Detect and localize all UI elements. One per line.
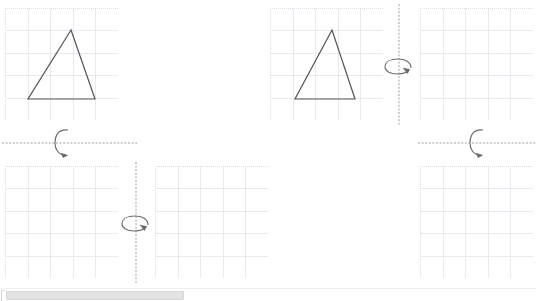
arrow-head: [476, 153, 482, 157]
grid-bottom-middle[interactable]: [155, 166, 268, 278]
rotation-arrow-vertical[interactable]: [119, 211, 153, 235]
arrow-arc: [55, 130, 68, 155]
rotation-arrow-horizontal[interactable]: [466, 126, 492, 160]
rotation-arrow-vertical[interactable]: [382, 54, 416, 78]
grid-lines: [155, 166, 268, 278]
triangle-shape[interactable]: [5, 8, 118, 120]
worksheet-canvas: [0, 0, 536, 301]
horizontal-scrollbar-thumb[interactable]: [6, 291, 184, 300]
arrow-head: [61, 153, 67, 157]
arrow-arc: [470, 130, 483, 155]
grid-bottom-right[interactable]: [420, 166, 533, 278]
grid-lines: [5, 166, 118, 278]
grid-lines: [420, 8, 533, 120]
horizontal-scrollbar-track[interactable]: [0, 288, 536, 301]
grid-top-right[interactable]: [420, 8, 533, 120]
grid-top-middle[interactable]: [270, 8, 383, 120]
grid-top-left[interactable]: [5, 8, 118, 120]
triangle-shape[interactable]: [270, 8, 383, 120]
triangle-outline: [295, 30, 355, 99]
triangle-outline: [28, 30, 95, 99]
grid-lines: [420, 166, 533, 278]
grid-bottom-left[interactable]: [5, 166, 118, 278]
rotation-arrow-horizontal[interactable]: [51, 126, 77, 160]
